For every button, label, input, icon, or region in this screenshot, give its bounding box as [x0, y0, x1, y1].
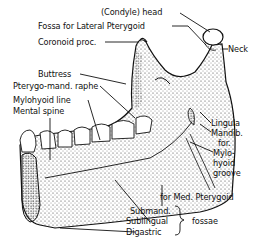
mandible-diagram: (Condyle) head Fossa for Lateral Pterygo…: [0, 0, 255, 247]
label-mylohyoid-groove-3: groove: [213, 169, 241, 178]
label-fossae: fossae: [192, 217, 218, 226]
label-coronoid-proc: Coronoid proc.: [38, 38, 96, 47]
label-neck: Neck: [228, 45, 248, 54]
label-mylohyoid-groove-1: Mylo-: [213, 149, 235, 158]
label-pterygo-mand-raphe: Pterygo-mand. raphe: [13, 82, 98, 91]
label-mylohyoid-groove-2: hyoid: [213, 159, 235, 168]
label-digastric: Digastric: [126, 228, 162, 237]
label-for-med-pterygoid: for Med. Pterygoid: [160, 193, 234, 202]
condyle-head: [203, 29, 223, 45]
label-lingula: Lingula: [211, 119, 240, 128]
label-submand: Submand.: [130, 207, 171, 216]
label-fossa-lateral-pterygoid: Fossa for Lateral Pterygoid: [38, 22, 145, 31]
label-mandib-for-2: for.: [218, 139, 231, 148]
label-mental-spine: Mental spine: [13, 107, 64, 116]
label-mylohyoid-line: Mylohyoid line: [13, 96, 71, 105]
label-mandib-for-1: Mandib.: [211, 129, 243, 138]
label-condyle-head: (Condyle) head: [101, 8, 162, 17]
label-buttress: Buttress: [38, 70, 71, 79]
label-sublingual: Sublingual: [126, 217, 168, 226]
